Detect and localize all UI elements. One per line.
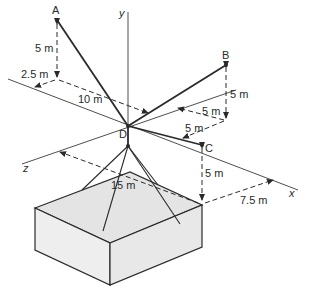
statics-diagram: A B C D y x z 5 m 2.5 m 10 m 5 m 5 m 5 m…	[0, 0, 312, 294]
dim-label-box-x: 7.5 m	[240, 194, 268, 206]
label-D: D	[119, 128, 127, 140]
dim-label-a-z: 2.5 m	[21, 68, 49, 80]
cable-DA	[57, 20, 128, 126]
label-y-axis: y	[118, 7, 126, 19]
dim-a-x	[59, 80, 148, 113]
dim-label-b-x: 5 m	[202, 105, 220, 117]
dim-label-c-depth: 5 m	[205, 167, 223, 179]
label-A: A	[52, 4, 60, 16]
label-C: C	[205, 142, 213, 154]
point-A-marker	[55, 18, 59, 22]
dim-label-b-height: 5 m	[230, 88, 248, 100]
dim-label-a-height: 5 m	[35, 42, 53, 54]
dim-label-a-x: 10 m	[78, 93, 102, 105]
dim-label-b-z: 5 m	[185, 122, 203, 134]
dim-label-box-z: 15 m	[111, 179, 135, 191]
point-B-marker	[224, 63, 228, 67]
point-C-marker	[200, 143, 204, 147]
label-x-axis: x	[288, 187, 295, 199]
label-z-axis: z	[22, 162, 29, 174]
label-B: B	[222, 49, 229, 61]
rig-hook-marker	[126, 144, 130, 148]
x-axis	[8, 79, 298, 190]
dim-a-z	[35, 80, 55, 87]
